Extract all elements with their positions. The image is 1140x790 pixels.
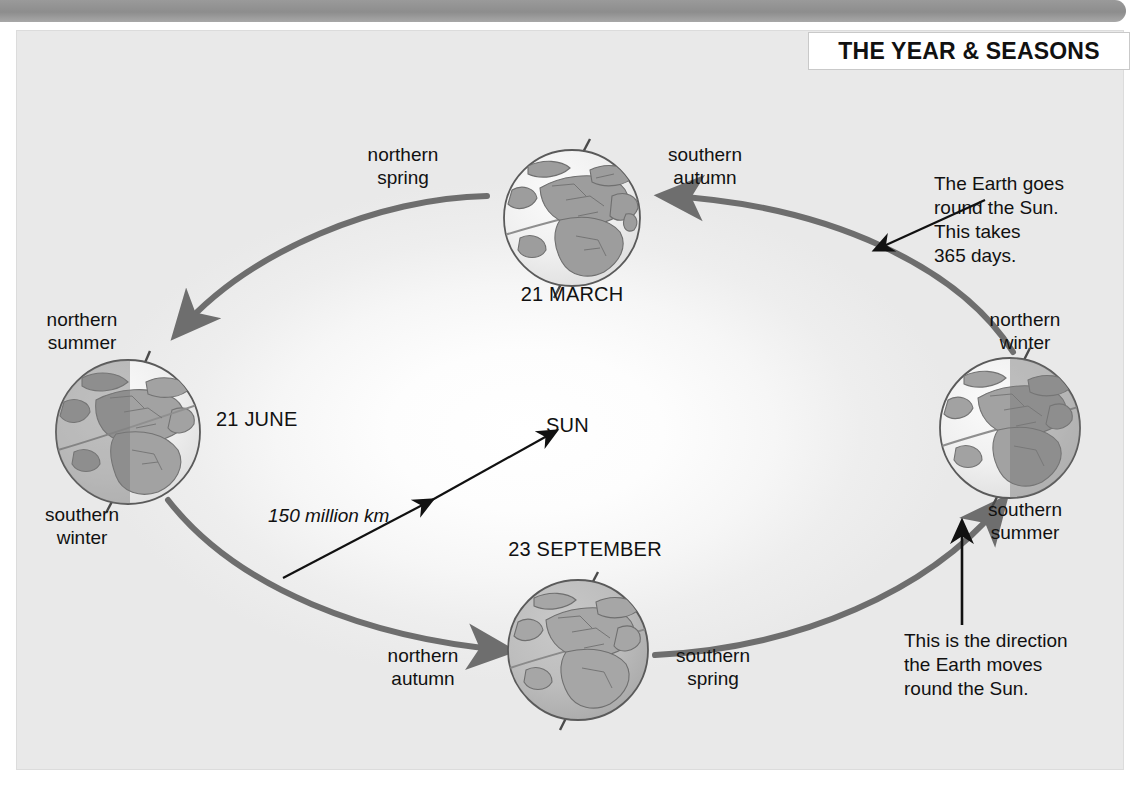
label-southern-winter: southern winter (12, 503, 152, 549)
date-june: 21 JUNE (216, 408, 297, 431)
page-title: THE YEAR & SEASONS (838, 38, 1099, 65)
label-northern-summer: northern summer (12, 308, 152, 354)
distance-label: 150 million km (268, 504, 389, 527)
date-march: 21 MARCH (507, 283, 637, 306)
sun-label: SUN (546, 414, 589, 437)
label-northern-spring: northern spring (338, 143, 468, 189)
diagram-page: THE YEAR & SEASONS northern spring south… (0, 0, 1140, 790)
label-southern-autumn: southern autumn (640, 143, 770, 189)
callout-orbit-period: The Earth goes round the Sun. This takes… (934, 172, 1134, 268)
label-northern-winter: northern winter (955, 308, 1095, 354)
title-box: THE YEAR & SEASONS (808, 32, 1130, 70)
label-northern-autumn: northern autumn (358, 644, 488, 690)
label-southern-summer: southern summer (955, 498, 1095, 544)
callout-orbit-direction: This is the direction the Earth moves ro… (904, 629, 1134, 701)
header-band (0, 0, 1126, 22)
date-september: 23 SEPTEMBER (495, 538, 675, 561)
label-southern-spring: southern spring (648, 644, 778, 690)
